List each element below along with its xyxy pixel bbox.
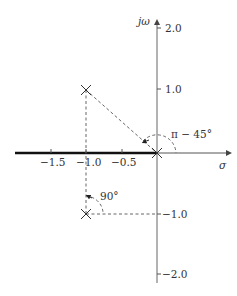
y-tick-2: 2.0 — [165, 22, 182, 34]
y-tick-neg2: −2.0 — [162, 268, 188, 280]
x-tick-neg1: −1.0 — [76, 156, 102, 168]
angle-arrow-lower — [88, 196, 92, 198]
pole-lower — [81, 209, 91, 219]
angle-label-lower: 90° — [100, 190, 119, 202]
s-plane-diagram: jω σ 2.0 1.0 −1.0 −2.0 −1.5 −1.0 −0.5 π … — [0, 0, 237, 296]
angle-arrow-upper — [144, 140, 149, 142]
y-tick-neg1: −1.0 — [162, 208, 188, 220]
angle-label-upper: π − 45° — [171, 128, 212, 140]
x-tick-neg1-5: −1.5 — [40, 156, 66, 168]
x-axis-label: σ — [219, 159, 227, 171]
x-tick-neg0-5: −0.5 — [111, 156, 137, 168]
y-tick-1: 1.0 — [165, 83, 182, 95]
pole-upper — [81, 85, 91, 95]
y-axis-label: jω — [136, 15, 150, 27]
